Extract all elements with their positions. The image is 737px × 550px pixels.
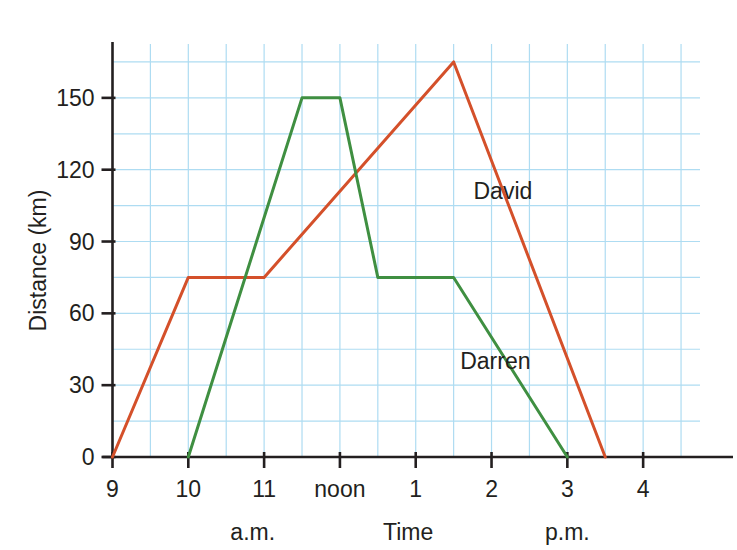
y-tick-label: 120 — [56, 157, 94, 183]
y-tick-label: 30 — [69, 372, 95, 398]
series-label-david: David — [473, 178, 532, 204]
x-tick-label: 10 — [176, 476, 202, 502]
period-label-am: a.m. — [230, 519, 275, 545]
chart-background — [0, 0, 737, 550]
y-tick-label: 150 — [56, 85, 94, 111]
x-tick-label: 9 — [106, 476, 119, 502]
y-tick-label: 0 — [82, 444, 95, 470]
x-tick-label: 11 — [252, 476, 276, 502]
series-label-darren: Darren — [460, 348, 530, 374]
x-tick-label: 2 — [485, 476, 498, 502]
period-label-pm: p.m. — [545, 519, 590, 545]
x-axis-title: Time — [383, 519, 433, 545]
x-tick-label: noon — [314, 476, 365, 502]
x-tick-label: 4 — [637, 476, 650, 502]
chart-canvas: 030609012015091011noon1234 DavidDarrenTi… — [0, 0, 737, 550]
x-tick-label: 1 — [409, 476, 422, 502]
y-tick-label: 90 — [69, 229, 95, 255]
y-tick-label: 60 — [69, 300, 95, 326]
y-axis-title: Distance (km) — [25, 190, 51, 332]
distance-time-chart: 030609012015091011noon1234 DavidDarrenTi… — [0, 0, 737, 550]
x-tick-label: 3 — [561, 476, 574, 502]
